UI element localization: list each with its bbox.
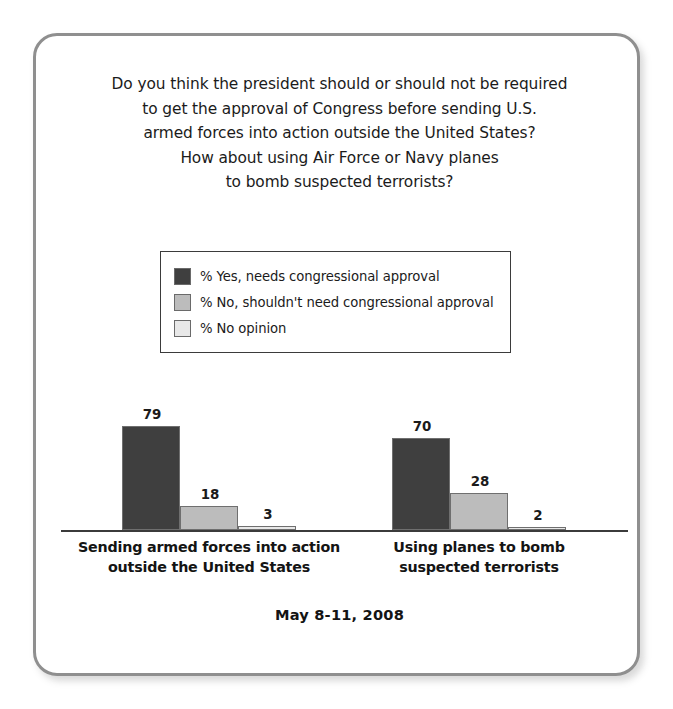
bar-value-0-0: 79 bbox=[123, 407, 181, 525]
category-label-1-line-1: Using planes to bomb bbox=[364, 538, 594, 558]
bar-0-2: 3 bbox=[238, 526, 296, 530]
bar-value-0-2: 3 bbox=[239, 507, 297, 525]
bar-0-1: 18 bbox=[180, 506, 238, 530]
category-label-1-line-2: suspected terrorists bbox=[364, 558, 594, 578]
title-line-2: to get the approval of Congress before s… bbox=[36, 97, 643, 122]
footer-date: May 8-11, 2008 bbox=[36, 606, 643, 623]
bar-value-1-2: 2 bbox=[509, 508, 567, 525]
category-label-0-line-1: Sending armed forces into action bbox=[59, 538, 359, 558]
category-label-1: Using planes to bomb suspected terrorist… bbox=[364, 538, 594, 577]
title-line-1: Do you think the president should or sho… bbox=[36, 72, 643, 97]
legend-item-no-opinion: % No opinion bbox=[174, 315, 496, 341]
title-line-4: How about using Air Force or Navy planes bbox=[36, 146, 643, 171]
legend-swatch-no-opinion-icon bbox=[174, 320, 191, 337]
bar-value-1-1: 28 bbox=[451, 474, 509, 525]
category-label-0: Sending armed forces into action outside… bbox=[59, 538, 359, 577]
legend-label-no: % No, shouldn't need congressional appro… bbox=[200, 295, 494, 310]
chart-card: Do you think the president should or sho… bbox=[33, 33, 640, 676]
title-line-3: armed forces into action outside the Uni… bbox=[36, 121, 643, 146]
legend-item-yes: % Yes, needs congressional approval bbox=[174, 263, 496, 289]
category-label-0-line-2: outside the United States bbox=[59, 558, 359, 578]
chart-legend: % Yes, needs congressional approval % No… bbox=[160, 251, 511, 353]
legend-item-no: % No, shouldn't need congressional appro… bbox=[174, 289, 496, 315]
title-line-5: to bomb suspected terrorists? bbox=[36, 170, 643, 195]
bar-0-0: 79 bbox=[122, 426, 180, 530]
legend-swatch-yes-icon bbox=[174, 268, 191, 285]
bar-1-0: 70 bbox=[392, 438, 450, 530]
legend-label-no-opinion: % No opinion bbox=[200, 321, 286, 336]
bar-1-2: 2 bbox=[508, 527, 566, 530]
chart-title: Do you think the president should or sho… bbox=[36, 72, 643, 195]
bar-1-1: 28 bbox=[450, 493, 508, 530]
axis-baseline bbox=[61, 530, 628, 532]
bar-value-1-0: 70 bbox=[393, 419, 451, 525]
legend-swatch-no-icon bbox=[174, 294, 191, 311]
bar-value-0-1: 18 bbox=[181, 487, 239, 525]
legend-label-yes: % Yes, needs congressional approval bbox=[200, 269, 440, 284]
